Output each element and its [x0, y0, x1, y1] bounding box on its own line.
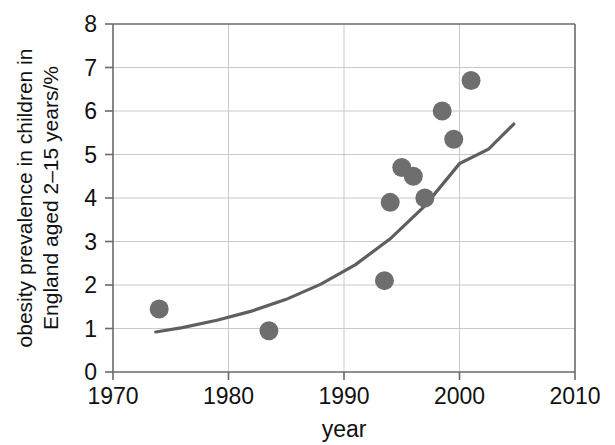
x-tick-label: 2010 [549, 383, 600, 409]
data-point [150, 299, 169, 318]
x-tick-label: 1980 [203, 383, 254, 409]
y-axis-title-line-2: England aged 2–15 years/% [39, 66, 62, 330]
y-tick-label: 2 [84, 272, 97, 298]
data-point [404, 167, 423, 186]
data-point [381, 193, 400, 212]
x-tick-label: 2000 [434, 383, 485, 409]
y-tick-label: 8 [84, 11, 97, 37]
y-tick-label: 1 [84, 316, 97, 342]
y-tick-label: 6 [84, 98, 97, 124]
data-point [444, 130, 463, 149]
y-tick-label: 4 [84, 185, 97, 211]
data-point [415, 189, 434, 208]
y-tick-label: 5 [84, 142, 97, 168]
y-tick-label: 0 [84, 359, 97, 385]
y-tick-label: 3 [84, 229, 97, 255]
y-axis-title: obesity prevalence in children in Englan… [13, 49, 62, 348]
x-axis-title: year [322, 416, 367, 442]
x-axis-ticks [113, 372, 575, 380]
x-tick-label: 1990 [318, 383, 369, 409]
scatter-plot: 8 7 6 5 4 3 2 1 0 1970 1980 1990 2000 20… [0, 0, 615, 445]
chart-figure: 8 7 6 5 4 3 2 1 0 1970 1980 1990 2000 20… [0, 0, 615, 445]
data-point [375, 271, 394, 290]
x-axis-tick-labels: 1970 1980 1990 2000 2010 [87, 383, 600, 409]
y-axis-title-line-1: obesity prevalence in children in [13, 49, 36, 348]
y-axis-tick-labels: 8 7 6 5 4 3 2 1 0 [84, 11, 97, 385]
y-tick-label: 7 [84, 55, 97, 81]
x-tick-label: 1970 [87, 383, 138, 409]
data-point [462, 71, 481, 90]
data-point [259, 321, 278, 340]
y-axis-ticks [105, 24, 113, 372]
data-point [433, 102, 452, 121]
